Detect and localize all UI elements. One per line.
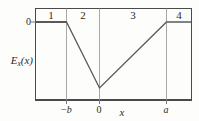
y-axis-zero-label: 0	[26, 17, 31, 27]
x-tick-label-a: a	[164, 105, 169, 115]
x-tick-label-minus-b: −b	[60, 105, 72, 115]
region-label-3: 3	[130, 10, 136, 21]
x-axis-title: x	[120, 107, 125, 118]
x-tick-label-zero: 0	[97, 105, 102, 115]
region-label-4: 4	[176, 10, 182, 21]
field-curve	[36, 22, 192, 88]
y-axis-title-subscript: x	[17, 59, 20, 68]
y-axis-title-arg: (x)	[21, 54, 33, 66]
y-axis-title-base: E	[11, 54, 18, 66]
region-label-1: 1	[48, 10, 54, 21]
electric-field-figure: 1 2 3 4 0 Ex(x) −b 0 a x	[0, 0, 199, 121]
region-label-2: 2	[80, 10, 86, 21]
y-axis-title: Ex(x)	[11, 55, 33, 66]
